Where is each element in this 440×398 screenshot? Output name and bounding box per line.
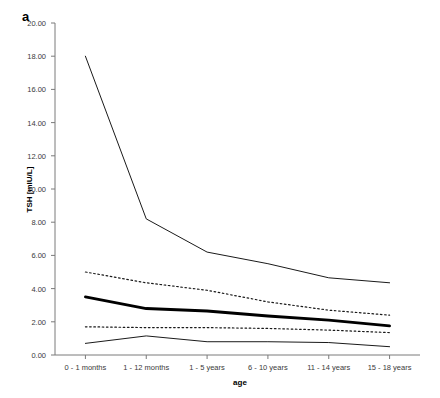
y-axis-tick-label: 16.00 bbox=[2, 85, 46, 94]
axis-spines bbox=[55, 23, 420, 355]
y-axis-tick-label: 12.00 bbox=[2, 151, 46, 160]
y-axis-tick-label: 2.00 bbox=[2, 317, 46, 326]
x-axis-tick-label: 6 - 10 years bbox=[248, 363, 288, 372]
y-axis-tick-labels: 0.002.004.006.008.0010.0012.0014.0016.00… bbox=[0, 0, 46, 398]
y-axis-tick-label: 18.00 bbox=[2, 52, 46, 61]
x-axis-tick-label: 11 - 14 years bbox=[307, 363, 350, 372]
line-chart-plot bbox=[0, 0, 440, 398]
x-axis-ticks bbox=[85, 355, 389, 359]
data-series-group bbox=[85, 56, 389, 347]
figure-panel: a TSH [mIU/L] age 0.002.004.006.008.0010… bbox=[0, 0, 440, 398]
x-axis-tick-label: 1 - 12 months bbox=[123, 363, 169, 372]
x-axis-title: age bbox=[55, 378, 425, 387]
y-axis-tick-label: 14.00 bbox=[2, 118, 46, 127]
x-axis-tick-label: 15 - 18 years bbox=[368, 363, 412, 372]
data-series-line bbox=[85, 336, 389, 347]
y-axis-tick-label: 8.00 bbox=[2, 218, 46, 227]
y-axis-tick-label: 6.00 bbox=[2, 251, 46, 260]
y-axis-tick-label: 4.00 bbox=[2, 284, 46, 293]
data-series-line bbox=[85, 327, 389, 333]
y-axis-ticks bbox=[51, 23, 55, 355]
data-series-line bbox=[85, 272, 389, 315]
x-axis-tick-label: 0 - 1 months bbox=[65, 363, 107, 372]
y-axis-tick-label: 0.00 bbox=[2, 351, 46, 360]
x-axis-tick-labels: 0 - 1 months1 - 12 months1 - 5 years6 - … bbox=[0, 363, 440, 377]
y-axis-tick-label: 20.00 bbox=[2, 19, 46, 28]
y-axis-tick-label: 10.00 bbox=[2, 185, 46, 194]
x-axis-tick-label: 1 - 5 years bbox=[189, 363, 224, 372]
data-series-line bbox=[85, 56, 389, 283]
